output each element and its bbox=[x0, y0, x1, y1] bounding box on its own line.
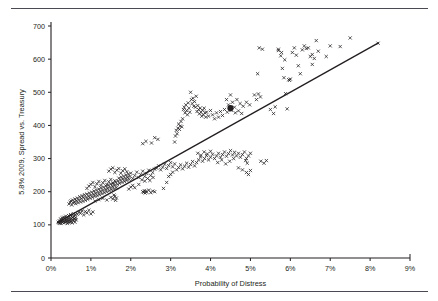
scatter-point bbox=[255, 98, 258, 101]
scatter-point bbox=[223, 108, 226, 111]
scatter-point bbox=[189, 91, 192, 94]
scatter-point bbox=[209, 150, 212, 153]
scatter-point bbox=[235, 154, 238, 157]
scatter-point bbox=[256, 72, 259, 75]
scatter-point bbox=[133, 174, 136, 177]
scatter-point bbox=[234, 111, 237, 114]
scatter-point bbox=[196, 152, 199, 155]
scatter-point bbox=[242, 105, 245, 108]
scatter-point bbox=[82, 213, 85, 216]
x-axis-tick-label: 5% bbox=[245, 264, 256, 273]
scatter-point bbox=[269, 108, 272, 111]
scatter-point bbox=[112, 193, 115, 196]
scatter-point bbox=[249, 169, 252, 172]
x-axis-tick-label: 2% bbox=[126, 264, 137, 273]
scatter-point bbox=[329, 44, 332, 47]
scatter-point bbox=[233, 151, 236, 154]
scatter-point bbox=[238, 102, 241, 105]
scatter-point bbox=[311, 53, 314, 56]
scatter-point bbox=[299, 72, 302, 75]
scatter-point bbox=[193, 164, 196, 167]
scatter-point bbox=[141, 142, 144, 145]
scatter-point bbox=[188, 111, 191, 114]
scatter-point bbox=[339, 45, 342, 48]
scatter-point bbox=[313, 57, 316, 60]
y-axis-tick-label: 700 bbox=[33, 22, 45, 31]
scatter-point bbox=[144, 140, 147, 143]
scatter-point bbox=[203, 150, 206, 153]
x-axis-tick-label: 8% bbox=[365, 264, 376, 273]
scatter-point bbox=[325, 55, 328, 58]
scatter-point bbox=[91, 181, 94, 184]
scatter-point bbox=[207, 115, 210, 118]
scatter-point bbox=[258, 46, 261, 49]
scatter-point bbox=[237, 109, 240, 112]
scatter-point bbox=[232, 157, 235, 160]
scatter-point bbox=[109, 178, 112, 181]
scatter-point bbox=[241, 153, 244, 156]
y-axis-tick-label: 200 bbox=[33, 187, 45, 196]
scatter-point bbox=[123, 167, 126, 170]
scatter-point bbox=[99, 184, 102, 187]
scatter-point bbox=[91, 210, 94, 213]
scatter-point bbox=[293, 46, 296, 49]
y-axis-tick-label: 0 bbox=[41, 254, 45, 263]
scatter-point bbox=[239, 156, 242, 159]
scatter-point bbox=[151, 171, 154, 174]
scatter-point bbox=[159, 168, 162, 171]
highlighted-data-point[interactable] bbox=[227, 105, 233, 111]
scatter-point bbox=[191, 97, 194, 100]
scatter-point bbox=[211, 153, 214, 156]
scatter-point bbox=[187, 101, 190, 104]
scatter-point bbox=[311, 63, 314, 66]
scatter-point bbox=[204, 116, 207, 119]
scatter-point bbox=[259, 95, 262, 98]
x-axis-tick-label: 0% bbox=[46, 264, 57, 273]
scatter-point bbox=[223, 150, 226, 153]
scatter-point bbox=[274, 105, 277, 108]
scatter-point bbox=[283, 58, 286, 61]
scatter-point bbox=[201, 160, 204, 163]
figure-container: 01002003004005006007000%1%2%3%4%5%6%7%8%… bbox=[0, 0, 438, 301]
scatter-chart: 01002003004005006007000%1%2%3%4%5%6%7%8%… bbox=[0, 0, 438, 301]
scatter-point bbox=[245, 101, 248, 104]
scatter-point bbox=[247, 154, 250, 157]
scatter-point bbox=[211, 113, 214, 116]
scatter-point bbox=[272, 112, 275, 115]
scatter-point bbox=[150, 141, 153, 144]
scatter-point bbox=[231, 101, 234, 104]
x-axis-title: Probability of Distress bbox=[195, 279, 267, 288]
y-axis-tick-label: 600 bbox=[33, 55, 45, 64]
scatter-point bbox=[195, 95, 198, 98]
scatter-point bbox=[93, 185, 96, 188]
scatter-point bbox=[281, 67, 284, 70]
scatter-point bbox=[315, 39, 318, 42]
scatter-point bbox=[189, 163, 192, 166]
scatter-point bbox=[105, 198, 108, 201]
scatter-point bbox=[221, 114, 224, 117]
scatter-point bbox=[207, 158, 210, 161]
x-axis-tick-label: 7% bbox=[325, 264, 336, 273]
scatter-point bbox=[349, 36, 352, 39]
scatter-point bbox=[229, 93, 232, 96]
scatter-point bbox=[133, 186, 136, 189]
scatter-point bbox=[169, 161, 172, 164]
scatter-point bbox=[217, 116, 220, 119]
scatter-point bbox=[177, 166, 180, 169]
scatter-point bbox=[141, 170, 144, 173]
scatter-point bbox=[282, 76, 285, 79]
scatter-point bbox=[173, 162, 176, 165]
scatter-point bbox=[213, 157, 216, 160]
x-axis-tick-label: 6% bbox=[285, 264, 296, 273]
scatter-point bbox=[317, 50, 320, 53]
scatter-point bbox=[183, 165, 186, 168]
scatter-point bbox=[231, 153, 234, 156]
scatter-point bbox=[215, 111, 218, 114]
scatter-point bbox=[297, 64, 300, 67]
scatter-point bbox=[148, 179, 151, 182]
scatter-point bbox=[165, 181, 168, 184]
scatter-point bbox=[241, 168, 244, 171]
scatter-point bbox=[203, 107, 206, 110]
scatter-point bbox=[185, 162, 188, 165]
y-axis-tick-label: 300 bbox=[33, 154, 45, 163]
